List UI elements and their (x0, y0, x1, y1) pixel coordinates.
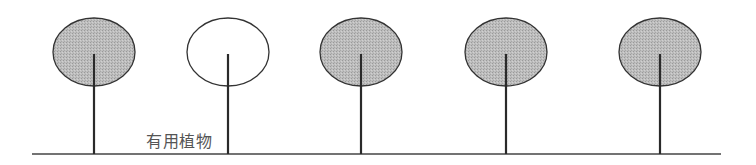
tree-5 (619, 18, 701, 154)
useful-plant-label: 有用植物 (146, 128, 212, 152)
tree-1 (53, 18, 135, 154)
plants-diagram (0, 0, 756, 165)
tree-4 (465, 18, 547, 154)
tree-3 (320, 18, 402, 154)
